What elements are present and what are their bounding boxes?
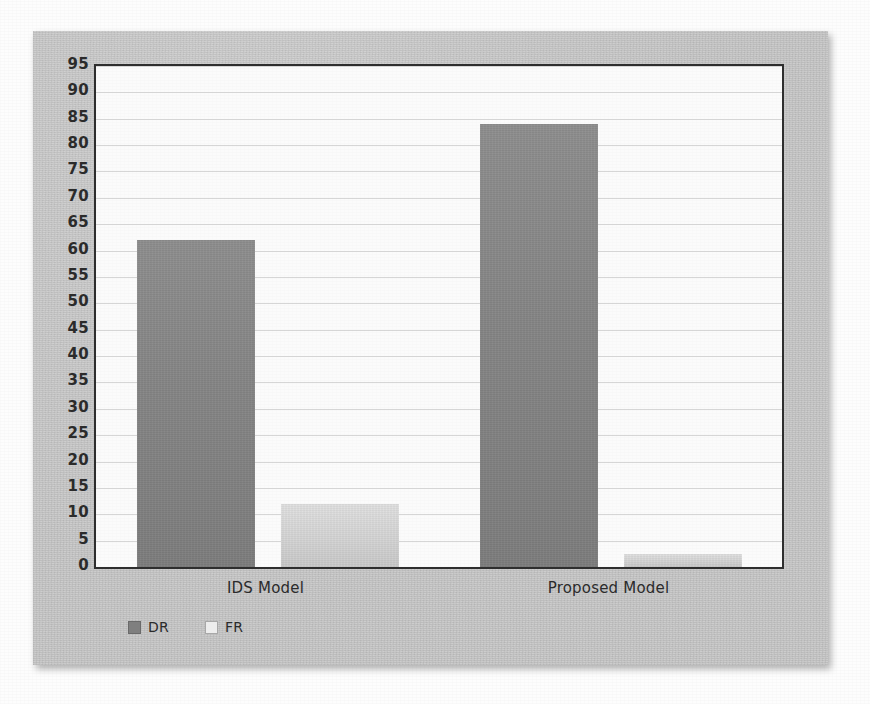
figure-card: 95908580757065605550454035302520151050 D… bbox=[33, 31, 828, 665]
gridline bbox=[96, 198, 782, 199]
chart-legend: DRFR bbox=[128, 619, 243, 635]
y-axis-tick-label: 5 bbox=[45, 530, 89, 548]
y-axis: 95908580757065605550454035302520151050 bbox=[39, 64, 89, 569]
y-axis-tick-label: 50 bbox=[45, 292, 89, 310]
y-axis-tick-label: 95 bbox=[45, 55, 89, 73]
bar-dr-proposed-model bbox=[480, 124, 598, 567]
legend-item-dr[interactable]: DR bbox=[128, 619, 169, 635]
y-axis-tick-label: 60 bbox=[45, 240, 89, 258]
y-axis-tick-label: 80 bbox=[45, 134, 89, 152]
y-axis-tick-label: 20 bbox=[45, 451, 89, 469]
y-axis-tick-label: 0 bbox=[45, 556, 89, 574]
gridline bbox=[96, 224, 782, 225]
y-axis-tick-label: 10 bbox=[45, 503, 89, 521]
y-axis-tick-label: 35 bbox=[45, 371, 89, 389]
y-axis-tick-label: 65 bbox=[45, 213, 89, 231]
bar-texture bbox=[281, 504, 399, 567]
plot-area bbox=[94, 64, 784, 569]
y-axis-tick-label: 70 bbox=[45, 187, 89, 205]
bar-dr-ids-model bbox=[137, 240, 255, 567]
bar-fr-proposed-model bbox=[624, 554, 742, 567]
plot-inner bbox=[96, 66, 782, 567]
y-axis-tick-label: 40 bbox=[45, 345, 89, 363]
legend-label: FR bbox=[225, 619, 243, 635]
y-axis-tick-label: 45 bbox=[45, 319, 89, 337]
y-axis-tick-label: 55 bbox=[45, 266, 89, 284]
scanned-page: 95908580757065605550454035302520151050 D… bbox=[0, 0, 870, 704]
x-axis-category-label: IDS Model bbox=[135, 579, 397, 597]
y-axis-tick-label: 30 bbox=[45, 398, 89, 416]
x-axis-category-label: Proposed Model bbox=[478, 579, 740, 597]
y-axis-tick-label: 85 bbox=[45, 108, 89, 126]
bar-texture bbox=[137, 240, 255, 567]
gridline bbox=[96, 92, 782, 93]
bar-texture bbox=[624, 554, 742, 567]
legend-swatch-fr-icon bbox=[205, 621, 218, 634]
y-axis-tick-label: 15 bbox=[45, 477, 89, 495]
legend-swatch-dr-icon bbox=[128, 621, 141, 634]
gridline bbox=[96, 171, 782, 172]
legend-item-fr[interactable]: FR bbox=[205, 619, 243, 635]
gridline bbox=[96, 145, 782, 146]
y-axis-tick-label: 90 bbox=[45, 81, 89, 99]
y-axis-tick-label: 75 bbox=[45, 160, 89, 178]
gridline bbox=[96, 66, 782, 67]
y-axis-tick-label: 25 bbox=[45, 424, 89, 442]
bar-fr-ids-model bbox=[281, 504, 399, 567]
gridline bbox=[96, 119, 782, 120]
bar-texture bbox=[480, 124, 598, 567]
legend-label: DR bbox=[148, 619, 169, 635]
